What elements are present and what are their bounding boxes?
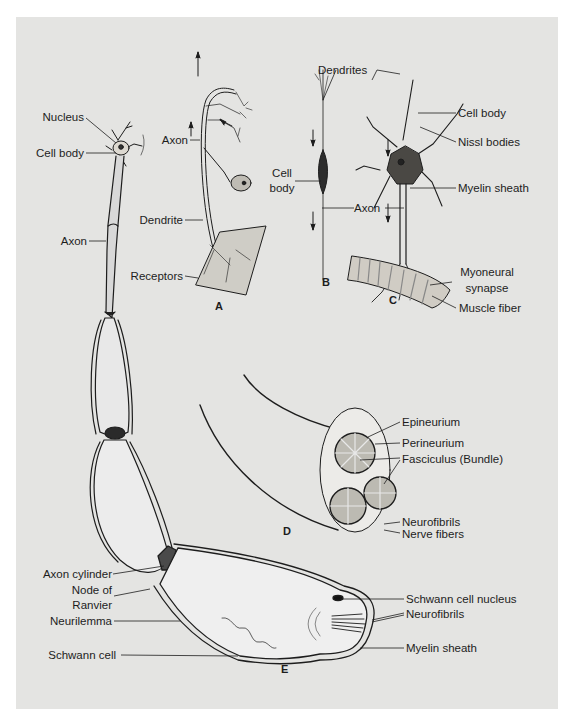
label-schwann-cell: Schwann cell [30, 649, 116, 662]
label-A-cell-body-2: body [266, 182, 298, 195]
label-fasciculus: Fasciculus (Bundle) [402, 453, 503, 466]
label-A-axon: Axon [140, 134, 188, 147]
label-perineurium: Perineurium [402, 437, 464, 450]
label-axon-cylinder: Axon cylinder [30, 568, 112, 581]
label-node-2: Ranvier [50, 599, 112, 612]
label-E-neurofibrils: Neurofibrils [406, 608, 464, 621]
panel-label-C: C [389, 294, 397, 306]
label-C-myelin-sheath: Myelin sheath [458, 182, 529, 195]
label-axon-left: Axon [40, 235, 87, 248]
C-neuron [348, 80, 463, 308]
panel-label-A: A [215, 300, 223, 312]
B-neuron [311, 70, 328, 280]
label-neurilemma: Neurilemma [30, 615, 112, 628]
panel-label-D: D [283, 525, 291, 537]
label-nerve-fibers: Nerve fibers [402, 528, 464, 541]
E-fiber [154, 544, 374, 664]
label-epineurium: Epineurium [402, 416, 460, 429]
label-myoneural-1: Myoneural [456, 266, 518, 279]
label-nissl-bodies: Nissl bodies [458, 136, 520, 149]
panel-label-B: B [322, 276, 330, 288]
label-A-dendrite: Dendrite [120, 214, 183, 227]
label-schwann-nucleus: Schwann cell nucleus [406, 593, 517, 606]
label-myoneural-2: synapse [456, 282, 518, 295]
A-neuron [189, 52, 266, 295]
label-E-myelin-sheath: Myelin sheath [406, 642, 477, 655]
label-nucleus: Nucleus [30, 111, 84, 124]
label-B-axon: Axon [354, 202, 380, 215]
label-A-cell-body-1: Cell [266, 167, 298, 180]
label-muscle-fiber: Muscle fiber [459, 302, 521, 315]
panel-label-E: E [281, 663, 288, 675]
D-nerve [200, 375, 396, 532]
label-cell-body-left: Cell body [20, 147, 84, 160]
label-dendrites: Dendrites [318, 64, 367, 77]
left-neuron-body [106, 122, 144, 166]
label-A-receptors: Receptors [118, 270, 183, 283]
label-node-1: Node of [50, 584, 112, 597]
label-C-cell-body: Cell body [458, 107, 506, 120]
